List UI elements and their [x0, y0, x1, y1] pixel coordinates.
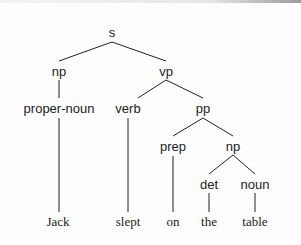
node-np: np	[52, 64, 66, 79]
leaf-slept: slept	[116, 214, 141, 230]
leaf-on: on	[167, 214, 180, 230]
node-vp: vp	[159, 64, 173, 79]
leaf-the: the	[201, 214, 217, 230]
tree-edges	[0, 0, 301, 245]
node-prep: prep	[160, 139, 186, 154]
node-proper-noun: proper-noun	[24, 101, 95, 116]
leaf-table: table	[242, 214, 267, 230]
leaf-jack: Jack	[46, 214, 69, 230]
node-det: det	[200, 177, 218, 192]
node-np-object: np	[226, 139, 240, 154]
node-s: s	[109, 25, 116, 40]
node-pp: pp	[196, 101, 210, 116]
node-noun: noun	[241, 177, 270, 192]
node-verb: verb	[115, 101, 140, 116]
